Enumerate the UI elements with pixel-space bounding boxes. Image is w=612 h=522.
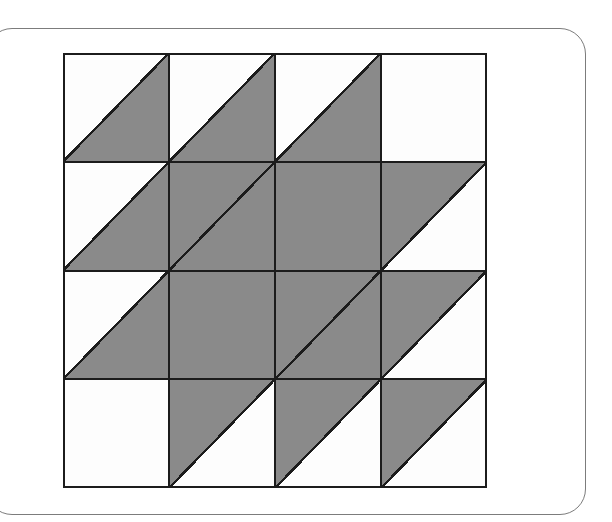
- quilt-cell-filled-r3c2: [169, 271, 275, 380]
- quilt-block-pattern: [63, 53, 487, 488]
- screenshot-root: [0, 0, 612, 522]
- quilt-cell-filled-r2c3: [275, 162, 381, 271]
- quilt-pattern-svg: [63, 53, 487, 488]
- quilt-cell-background-r4c1: [63, 379, 169, 488]
- quilt-cell-background-r1c4: [381, 53, 487, 162]
